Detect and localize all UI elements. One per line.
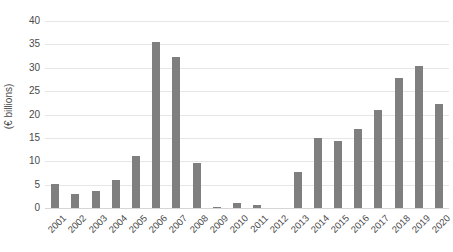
- x-tick-label: 2008: [188, 213, 210, 235]
- bar[interactable]: [233, 203, 241, 208]
- y-tick-label: 5: [34, 180, 40, 190]
- y-tick-label: 20: [29, 110, 40, 120]
- bar[interactable]: [193, 163, 201, 208]
- bar[interactable]: [132, 156, 140, 208]
- x-tick-label: 2018: [390, 213, 412, 235]
- y-tick-label: 30: [29, 63, 40, 73]
- x-axis-tick-labels: 2001200220032004200520062007200820092010…: [45, 209, 449, 252]
- x-tick-label: 2010: [228, 213, 250, 235]
- bar[interactable]: [415, 66, 423, 208]
- bar[interactable]: [71, 194, 79, 208]
- bar[interactable]: [51, 184, 59, 208]
- y-axis-title-text: (€ billions): [4, 83, 15, 129]
- bar[interactable]: [213, 207, 221, 208]
- x-tick-label: 2016: [349, 213, 371, 235]
- x-tick-label: 2013: [289, 213, 311, 235]
- x-tick-label: 2017: [369, 213, 391, 235]
- bar[interactable]: [354, 129, 362, 208]
- x-tick-label: 2002: [66, 213, 88, 235]
- bar[interactable]: [253, 205, 261, 208]
- x-tick-label: 2011: [249, 213, 270, 234]
- x-tick-label: 2015: [329, 213, 351, 235]
- x-tick-label: 2014: [309, 213, 331, 235]
- bar-chart: (€ billions) 0510152025303540 2001200220…: [0, 0, 453, 252]
- y-tick-label: 0: [34, 203, 40, 213]
- bar[interactable]: [395, 78, 403, 208]
- y-tick-label: 35: [29, 39, 40, 49]
- x-tick-label: 2020: [430, 213, 452, 235]
- x-tick-label: 2006: [147, 213, 169, 235]
- x-tick-label: 2004: [107, 213, 129, 235]
- x-tick-label: 2003: [87, 213, 109, 235]
- bar[interactable]: [152, 42, 160, 208]
- bar[interactable]: [435, 104, 443, 208]
- y-axis-tick-labels: 0510152025303540: [18, 21, 42, 208]
- bar[interactable]: [374, 110, 382, 208]
- x-tick-label: 2005: [127, 213, 149, 235]
- bar[interactable]: [334, 141, 342, 208]
- x-tick-label: 2019: [410, 213, 432, 235]
- x-tick-label: 2012: [268, 213, 290, 235]
- bar[interactable]: [294, 172, 302, 208]
- x-tick-label: 2009: [208, 213, 230, 235]
- x-tick-label: 2007: [167, 213, 189, 235]
- y-tick-label: 40: [29, 16, 40, 26]
- y-tick-label: 25: [29, 86, 40, 96]
- y-tick-label: 15: [29, 133, 40, 143]
- bars-layer: [45, 21, 449, 208]
- bar[interactable]: [112, 180, 120, 208]
- y-tick-label: 10: [29, 156, 40, 166]
- x-tick-label: 2001: [46, 213, 68, 235]
- bar[interactable]: [92, 191, 100, 208]
- bar[interactable]: [314, 138, 322, 208]
- plot-area: [45, 21, 449, 208]
- y-axis-title: (€ billions): [0, 0, 18, 212]
- bar[interactable]: [172, 57, 180, 208]
